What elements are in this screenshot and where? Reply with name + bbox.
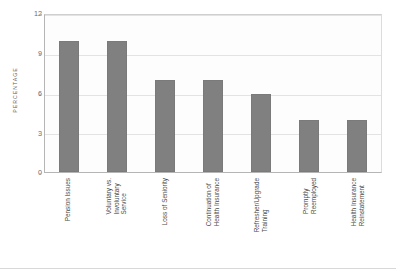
x-axis-label-text: Refresher/UpgradeTraining: [254, 178, 269, 232]
bars-layer: [45, 15, 381, 172]
x-axis-label: Loss of Seniority: [141, 174, 189, 269]
x-axis-label: Refresher/UpgradeTraining: [237, 174, 285, 269]
x-axis-label-text: Health InsuranceReinstatement: [350, 178, 365, 226]
bar[interactable]: [251, 94, 270, 173]
y-axis-ticks: 036912: [18, 0, 42, 269]
x-axis-label-text: Loss of Seniority: [161, 178, 169, 225]
x-axis-label-text: Pension Issues: [64, 178, 72, 221]
x-axis-label-text: PromptlyReemployed: [302, 178, 317, 214]
x-axis-label: PromptlyReemployed: [285, 174, 333, 269]
bar[interactable]: [59, 41, 78, 172]
x-axis-label: Continuation ofHealth Insurance: [189, 174, 237, 269]
plot-inner: [45, 15, 381, 172]
bar[interactable]: [299, 120, 318, 172]
y-tick-mark-9: [39, 54, 42, 55]
x-axis-label-text: Continuation ofHealth Insurance: [205, 178, 220, 226]
x-axis-labels: Pension IssuesVoluntary vs.InvoluntarySe…: [44, 174, 382, 269]
y-tick-mark-0: [39, 173, 42, 174]
bar[interactable]: [203, 80, 222, 172]
bar[interactable]: [155, 80, 174, 172]
x-axis-label-text: Voluntary vs.InvoluntaryService: [105, 178, 128, 215]
bar-chart: PERCENTAGE 036912 Pension IssuesVoluntar…: [0, 0, 396, 269]
y-tick-mark-3: [39, 133, 42, 134]
x-axis-label: Voluntary vs.InvoluntaryService: [92, 174, 140, 269]
y-tick-mark-12: [39, 14, 42, 15]
bar[interactable]: [107, 41, 126, 172]
bar[interactable]: [347, 120, 366, 172]
x-axis-label: Pension Issues: [44, 174, 92, 269]
y-tick-mark-6: [39, 94, 42, 95]
plot-area: [44, 14, 382, 173]
x-axis-label: Health InsuranceReinstatement: [334, 174, 382, 269]
